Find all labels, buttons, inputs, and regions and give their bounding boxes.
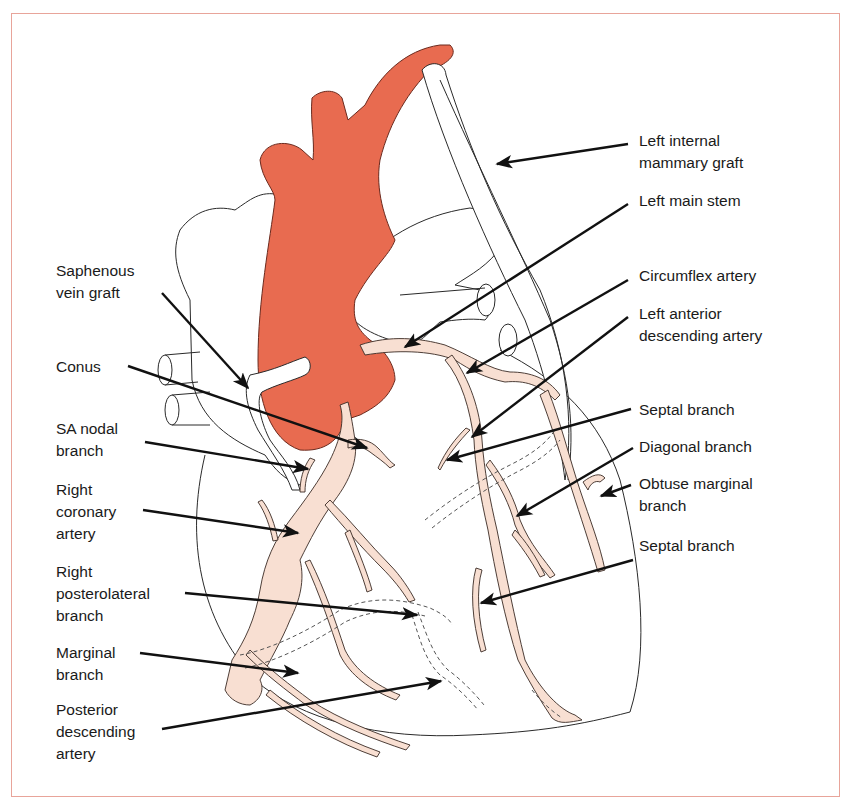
- arrow-posterior-descending-artery: [162, 681, 441, 729]
- label-conus: Conus: [56, 356, 101, 378]
- label-sa-nodal-branch: SA nodal branch: [56, 418, 118, 462]
- label-septal-branch-lower: Septal branch: [639, 535, 735, 557]
- pulmonary-branch-2: [499, 324, 517, 356]
- arrow-left-internal-mammary-graft: [497, 144, 628, 164]
- arrow-saphenous-vein-graft: [162, 293, 248, 388]
- arrow-right-posterolateral-branch: [185, 593, 417, 615]
- label-posterior-descending-artery: Posterior descending artery: [56, 699, 135, 765]
- label-left-main-stem: Left main stem: [639, 190, 741, 212]
- label-saphenous-vein-graft: Saphenous vein graft: [56, 260, 134, 304]
- arrow-right-coronary-artery: [143, 510, 298, 533]
- arrow-obtuse-marginal-branch: [601, 485, 631, 496]
- arrow-marginal-branch: [140, 653, 298, 673]
- label-right-posterolateral-branch: Right posterolateral branch: [56, 561, 150, 627]
- arrow-diagonal-branch: [517, 448, 633, 516]
- label-obtuse-marginal-branch: Obtuse marginal branch: [639, 473, 753, 517]
- label-left-anterior-descending-artery: Left anterior descending artery: [639, 303, 762, 347]
- heart-outline: [197, 350, 641, 736]
- label-diagonal-branch: Diagonal branch: [639, 436, 752, 458]
- label-circumflex-artery: Circumflex artery: [639, 265, 756, 287]
- label-left-internal-mammary-graft: Left internal mammary graft: [639, 130, 743, 174]
- label-right-coronary-artery: Right coronary artery: [56, 479, 116, 545]
- label-septal-branch-upper: Septal branch: [639, 399, 735, 421]
- label-marginal-branch: Marginal branch: [56, 642, 115, 686]
- arrow-sa-nodal-branch: [145, 442, 308, 469]
